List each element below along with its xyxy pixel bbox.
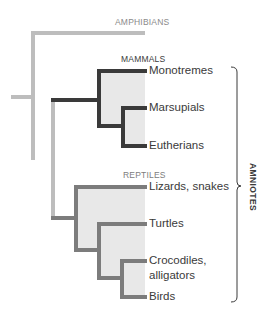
taxon-alligators: alligators [149, 269, 195, 282]
amniotes-bracket [231, 67, 241, 302]
taxon-marsupials: Marsupials [149, 101, 205, 114]
taxon-birds: Birds [149, 290, 175, 303]
group-label-reptiles: REPTILES [123, 170, 166, 180]
taxon-lizards-snakes: Lizards, snakes [149, 180, 229, 193]
phylogenetic-tree [0, 0, 266, 311]
group-label-amphibians: AMPHIBIANS [115, 17, 169, 27]
group-label-mammals: MAMMALS [121, 54, 165, 64]
reptile-clade-fill [76, 187, 145, 297]
taxon-turtles: Turtles [149, 217, 184, 230]
taxon-monotremes: Monotremes [149, 64, 213, 77]
taxon-eutherians: Eutherians [149, 139, 204, 152]
taxon-crocodiles: Crocodiles, [149, 254, 207, 267]
amniotes-label: AMNIOTES [248, 163, 258, 211]
